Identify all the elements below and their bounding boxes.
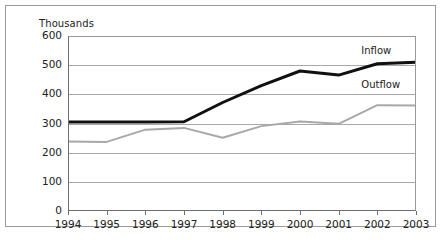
series-line-inflow — [68, 62, 416, 122]
series-label-inflow: Inflow — [361, 45, 391, 56]
x-axis-tick — [377, 211, 378, 215]
x-axis-tick — [261, 211, 262, 215]
x-axis-tick — [184, 211, 185, 215]
x-axis-tick — [68, 211, 69, 215]
y-axis-tick-label: 0 — [12, 204, 62, 216]
y-axis-tick-label: 400 — [12, 87, 62, 99]
y-axis-tick-label: 600 — [12, 29, 62, 41]
x-axis-tick — [339, 211, 340, 215]
y-axis-tick-label: 200 — [12, 146, 62, 158]
y-axis-tick-label: 300 — [12, 117, 62, 129]
chart-figure: Thousands 0100200300400500600 1994199519… — [5, 5, 436, 227]
x-axis-tick-label: 2003 — [393, 218, 439, 230]
x-axis-tick — [300, 211, 301, 215]
x-axis-tick — [416, 211, 417, 215]
x-axis-tick — [145, 211, 146, 215]
series-lines — [68, 36, 416, 211]
y-axis-tick-label: 500 — [12, 58, 62, 70]
x-axis-tick — [107, 211, 108, 215]
y-axis-units-label: Thousands — [39, 18, 94, 29]
x-axis-tick — [223, 211, 224, 215]
y-axis-tick-label: 100 — [12, 175, 62, 187]
plot-area: 0100200300400500600 19941995199619971998… — [68, 36, 416, 211]
series-label-outflow: Outflow — [361, 79, 400, 90]
